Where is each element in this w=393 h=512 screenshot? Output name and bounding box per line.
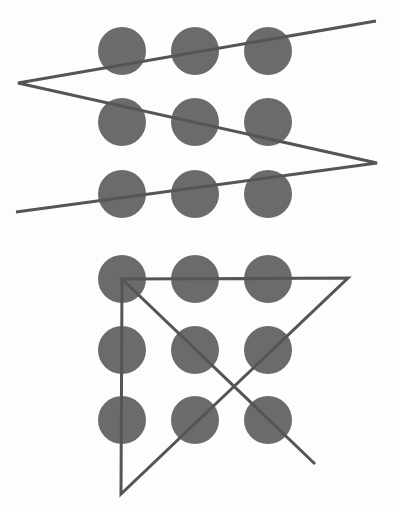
triangle-puzzle bbox=[98, 255, 348, 494]
dot-r2-c3 bbox=[244, 326, 292, 374]
dot-r1-c3 bbox=[244, 27, 292, 75]
triangle-line bbox=[121, 278, 348, 494]
dot-r3-c2 bbox=[171, 170, 219, 218]
dot-r3-c2 bbox=[171, 396, 219, 444]
zigzag-puzzle bbox=[16, 21, 377, 218]
nine-dot-puzzle-diagram bbox=[0, 0, 393, 512]
